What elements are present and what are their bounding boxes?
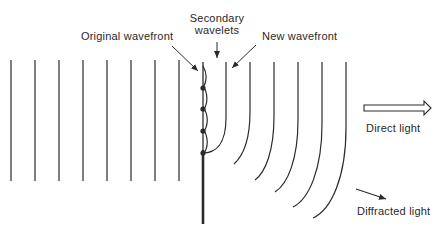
- original-wavefront-lines: [11, 60, 179, 181]
- new-wavefront-arrow-icon: [232, 45, 256, 68]
- diffracted-wavefront-curve: [234, 62, 250, 164]
- diffracted-wavefront-lines: [234, 62, 346, 218]
- diffraction-diagram: Original wavefront Secondary wavelets Ne…: [0, 0, 442, 237]
- diffracted-wavefront-curve: [313, 62, 346, 218]
- diffracted-light-label: Diffracted light: [357, 205, 430, 217]
- wavelet-source-dot: [200, 106, 205, 111]
- direct-light-arrow-icon: [364, 101, 431, 115]
- wavelet-source-dot: [200, 85, 205, 90]
- direct-light-label: Direct light: [366, 122, 420, 134]
- wavelet-source-dot: [200, 128, 205, 133]
- new-wavefront-label: New wavefront: [262, 30, 337, 42]
- diffracted-light-arrow-icon: [356, 189, 386, 199]
- secondary-wavelets-label-line2: wavelets: [195, 24, 239, 36]
- original-wavefront-arrow-icon: [172, 46, 198, 71]
- original-wavefront-label: Original wavefront: [81, 30, 173, 42]
- diffracted-wavefront-curve: [255, 62, 274, 180]
- diffracted-wavefront-curve: [275, 62, 298, 192]
- secondary-wavelets-label-line1: Secondary: [190, 12, 244, 24]
- secondary-wavelets: [200, 66, 207, 156]
